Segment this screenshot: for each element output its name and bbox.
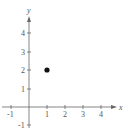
y-axis-arrow-icon: [27, 16, 31, 22]
x-axis-arrow-icon: [111, 105, 117, 109]
coordinate-plane: -1 1 2 3 4 -1 1 2 3 4 x y: [0, 0, 126, 130]
x-tick-label: 1: [45, 110, 49, 119]
y-tick-label: -1: [18, 121, 25, 130]
x-axis-label: x: [118, 103, 123, 112]
x-tick-label: 3: [81, 110, 85, 119]
y-tick-label: 4: [21, 29, 25, 38]
y-tick-label: 2: [21, 66, 25, 75]
y-tick-label: 1: [21, 85, 25, 94]
y-tick-label: 3: [21, 48, 25, 57]
x-tick-label: 2: [63, 110, 67, 119]
x-tick-label: -1: [7, 110, 14, 119]
x-tick-label: 4: [99, 110, 103, 119]
y-axis-label: y: [26, 6, 31, 15]
data-point: [44, 67, 49, 72]
